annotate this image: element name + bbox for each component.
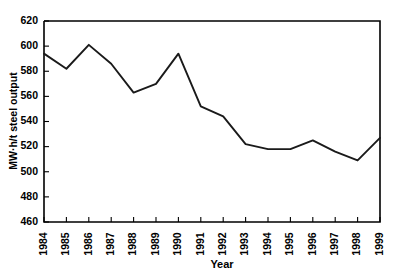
y-tick-label: 460	[20, 215, 38, 227]
x-tick-label: 1985	[59, 232, 71, 256]
x-tick-label: 1999	[373, 232, 385, 256]
y-tick-label: 500	[20, 165, 38, 177]
x-tick-label: 1991	[194, 232, 206, 256]
x-tick-label: 1989	[149, 232, 161, 256]
x-tick-label: 1986	[82, 232, 94, 256]
line-chart: 620600580560540520500480460 198419851986…	[0, 0, 400, 276]
x-axis-title: Year	[210, 258, 234, 270]
y-tick-label: 480	[20, 190, 38, 202]
x-tick-label: 1992	[216, 232, 228, 256]
y-tick-label: 560	[20, 89, 38, 101]
x-tick-label: 1994	[261, 232, 273, 256]
x-tick-label: 1987	[104, 232, 116, 256]
x-tick-label: 1996	[306, 232, 318, 256]
chart-canvas: 620600580560540520500480460 198419851986…	[0, 0, 400, 276]
y-tick-label: 620	[20, 14, 38, 26]
x-tick-label: 1993	[238, 232, 250, 256]
x-tick-label: 1984	[37, 232, 49, 256]
y-axis-tick-labels: 620600580560540520500480460	[20, 14, 38, 227]
y-axis-title: MW·h/t steel output	[7, 72, 19, 170]
y-tick-label: 580	[20, 64, 38, 76]
x-tick-label: 1998	[350, 232, 362, 256]
x-tick-label: 1997	[328, 232, 340, 256]
y-tick-label: 520	[20, 139, 38, 151]
y-tick-label: 600	[20, 39, 38, 51]
x-tick-label: 1990	[171, 232, 183, 256]
x-tick-label: 1995	[283, 232, 295, 256]
x-tick-label: 1988	[126, 232, 138, 256]
y-tick-label: 540	[20, 114, 38, 126]
